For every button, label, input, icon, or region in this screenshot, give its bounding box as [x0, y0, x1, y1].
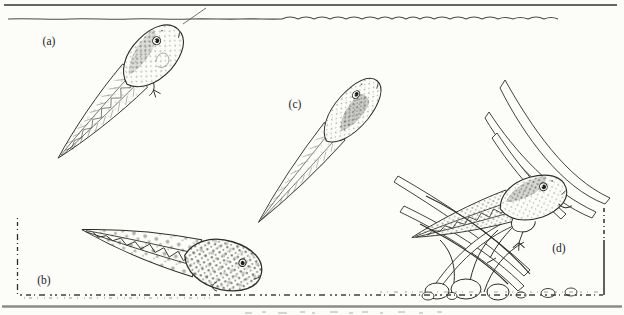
- water-surface-line: [8, 17, 558, 19]
- pondweed-blades-back: [394, 80, 610, 294]
- label-a: (a): [43, 35, 56, 48]
- label-d: (d): [552, 242, 566, 255]
- tadpole-figure: (a) (b) (c) (d): [0, 0, 624, 315]
- pebble: [541, 289, 555, 298]
- pebbles: [422, 279, 577, 300]
- pebble: [422, 292, 434, 300]
- pebble: [447, 293, 457, 300]
- tadpole-c: [245, 69, 391, 233]
- tadpole-d-hind-leg-foot: [509, 231, 528, 252]
- illustration-canvas: (a) (b) (c) (d): [0, 0, 624, 315]
- label-b: (b): [37, 274, 51, 287]
- tadpole-b: [75, 206, 267, 301]
- tadpole-a: [42, 14, 201, 179]
- surface-contact-line: [183, 8, 206, 24]
- cropped-caption-marks: [245, 312, 442, 313]
- label-c: (c): [289, 98, 302, 111]
